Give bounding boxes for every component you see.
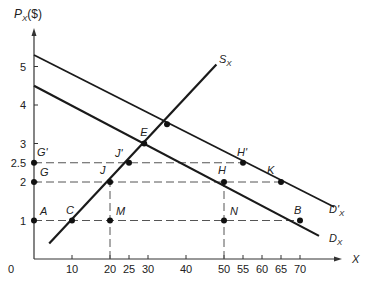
- x-tick-label: 50: [218, 263, 230, 275]
- x-axis-arrow-icon: [334, 257, 342, 262]
- point-intersection: [164, 121, 170, 127]
- y-tick-label: 4: [20, 99, 26, 111]
- x-tick-label: 25: [123, 263, 135, 275]
- x-tick-label: 65: [275, 263, 287, 275]
- point-label: G': [37, 146, 49, 158]
- chart-canvas: 10202530405055606570122.5345 ACMNBGJHKG'…: [0, 0, 377, 285]
- y-tick-label: 2: [20, 176, 26, 188]
- y-tick-label: 1: [20, 215, 26, 227]
- point-label: M: [116, 205, 126, 217]
- shifted-demand-curve-label: D'X: [329, 203, 345, 218]
- point-label: N: [230, 205, 238, 217]
- point-jprime: [126, 160, 132, 166]
- point-label: H: [218, 164, 226, 176]
- point-label: J: [99, 164, 106, 176]
- point-j: [107, 179, 113, 185]
- point-label: C: [66, 204, 74, 216]
- point-a: [31, 218, 37, 224]
- y-tick-label: 3: [20, 138, 26, 150]
- y-axis-arrow-icon: [32, 28, 37, 36]
- curve-dprime-x: [34, 55, 334, 207]
- x-tick-label: 30: [142, 263, 154, 275]
- x-tick-label: 60: [256, 263, 268, 275]
- point-e: [141, 141, 147, 147]
- point-label: G: [40, 166, 49, 178]
- data-points: ACMNBGJHKG'J'H'E: [31, 121, 303, 223]
- point-label: A: [39, 205, 47, 217]
- point-gprime: [31, 160, 37, 166]
- point-h: [221, 179, 227, 185]
- point-label: J': [114, 147, 124, 159]
- x-tick-label: 20: [104, 263, 116, 275]
- axes: [32, 28, 343, 262]
- point-b: [297, 218, 303, 224]
- point-label: E: [140, 126, 148, 138]
- x-tick-label: 40: [180, 263, 192, 275]
- x-tick-label: 55: [237, 263, 249, 275]
- point-g: [31, 179, 37, 185]
- curve-s-x: [49, 65, 216, 244]
- x-axis-label: X: [351, 253, 360, 265]
- curves: [34, 55, 334, 244]
- supply-curve-label: SX: [219, 53, 232, 68]
- point-k: [278, 179, 284, 185]
- x-tick-label: 10: [66, 263, 78, 275]
- point-n: [221, 218, 227, 224]
- y-tick-label: 5: [20, 61, 26, 73]
- point-label: H': [237, 146, 248, 158]
- y-tick-label: 2.5: [11, 157, 26, 169]
- point-hprime: [240, 160, 246, 166]
- demand-curve-label: DX: [329, 232, 343, 247]
- x-tick-label: 70: [294, 263, 306, 275]
- point-m: [107, 218, 113, 224]
- point-c: [69, 218, 75, 224]
- point-label: K: [267, 164, 275, 176]
- axis-ticks: 10202530405055606570122.5345: [11, 61, 306, 276]
- origin-label: 0: [8, 263, 14, 275]
- point-label: B: [294, 204, 301, 216]
- y-axis-label: PX($): [14, 7, 42, 23]
